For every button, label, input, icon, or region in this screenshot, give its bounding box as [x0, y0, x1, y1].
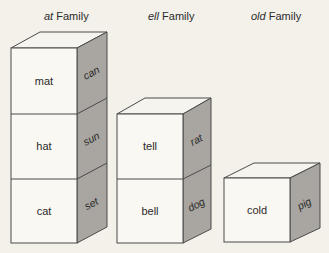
old-family-title: old Family	[251, 10, 302, 22]
block-word-cold: cold	[247, 204, 267, 216]
block-word-mat: mat	[35, 75, 53, 87]
block-word-cat: cat	[37, 205, 52, 217]
ell-family-stack: ell Family tell bell rat dog	[117, 10, 211, 243]
at-family-stack: at Family mat hat cat can sun set	[11, 10, 107, 243]
old-family-stack: old Family cold pig	[224, 10, 320, 242]
ell-family-title: ell Family	[148, 10, 195, 22]
block-word-bell: bell	[141, 205, 158, 217]
block-word-hat: hat	[36, 140, 51, 152]
at-family-title: at Family	[44, 10, 89, 22]
word-family-diagram: at Family mat hat cat can sun set ell Fa…	[0, 0, 329, 253]
block-word-tell: tell	[143, 140, 157, 152]
ell-cube-side-face	[183, 98, 211, 243]
